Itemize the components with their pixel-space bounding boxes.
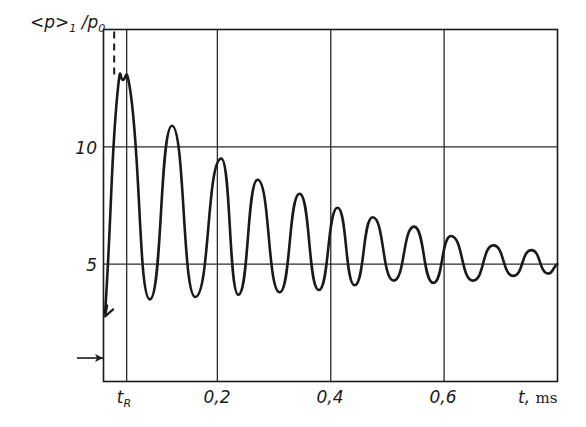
y-axis-label-sep: /p — [76, 12, 98, 32]
y-axis-label-main: <p> — [30, 12, 69, 32]
x-axis-label: t, ms — [518, 389, 557, 406]
grid-lines — [104, 30, 558, 382]
axis-arrow-icon — [77, 354, 103, 362]
y-tick-5: 5 — [57, 257, 97, 274]
y-tick-10: 10 — [57, 140, 97, 157]
x-tick-tR-sub: R — [124, 397, 132, 410]
x-axis-label-unit: ms — [535, 389, 557, 407]
x-tick-0-6: 0,6 — [423, 389, 463, 406]
curve-start-arrowhead-icon — [105, 305, 113, 316]
x-tick-tR: tR — [104, 389, 144, 409]
x-axis-label-var: t, — [518, 387, 530, 407]
x-tick-tR-main: t — [117, 387, 124, 407]
y-axis-label-sub2: 0 — [98, 22, 105, 35]
chart-canvas — [0, 0, 586, 427]
x-tick-0-4: 0,4 — [310, 389, 350, 406]
x-tick-0-2: 0,2 — [197, 389, 237, 406]
y-axis-label: <p>1 /p0 — [30, 14, 105, 34]
